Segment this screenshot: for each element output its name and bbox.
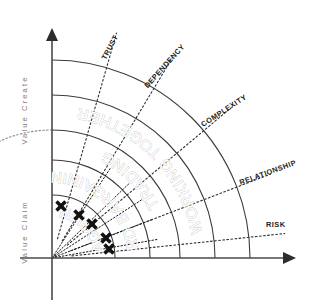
ray-label-relationship: RELATIONSHIP (238, 158, 297, 187)
ray-label-complexity: COMPLEXITY (199, 93, 248, 129)
band-labels-group: HAGGLINGHARD BARGAININGTRADINGWORKING TO… (0, 0, 205, 255)
axis-label-value-claim: Value Claim (20, 200, 29, 263)
ray-label-risk: RISK (266, 220, 286, 229)
band-label-4: WORKING TOGETHER (74, 105, 205, 236)
axis-labels-group: Value CreateValue Claim (20, 76, 29, 264)
ray-label-dependency: DEPENDENCY (142, 42, 186, 90)
negotiation-value-diagram: HAGGLINGHARD BARGAININGTRADINGWORKING TO… (0, 0, 309, 304)
horizontal-axis-arrow-icon (283, 252, 296, 264)
diagram-canvas: HAGGLINGHARD BARGAININGTRADINGWORKING TO… (0, 0, 309, 304)
vertical-axis-arrow-icon (46, 28, 58, 41)
axis-label-value-create: Value Create (20, 76, 29, 145)
